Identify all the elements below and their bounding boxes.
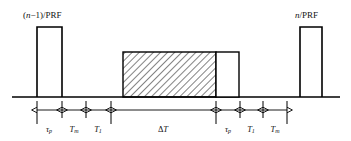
segment-label-t-1-left: T1 [94, 125, 102, 134]
pulse-right [300, 27, 322, 97]
segment-label-t-m-left: Tm [69, 125, 78, 134]
segment-label-tau-p-right: τp [225, 125, 231, 134]
segment-label-t-m-right: Tm [270, 125, 279, 134]
pulse-left [37, 27, 62, 97]
waveform-canvas [0, 0, 351, 141]
prf-timing-diagram: (n−1)/PRF n/PRF τp Tm T1 ΔT τp T1 Tm [0, 0, 351, 141]
measure-axis [37, 101, 287, 124]
segment-label-tau-p-left: τp [46, 125, 52, 134]
pulse-label-right: n/PRF [295, 11, 318, 20]
segment-label-t-1-right: T1 [247, 125, 255, 134]
open-box [216, 52, 239, 97]
hatched-box [123, 52, 216, 97]
pulse-label-left: (n−1)/PRF [23, 11, 62, 20]
segment-label-delta-t: ΔT [158, 125, 168, 134]
